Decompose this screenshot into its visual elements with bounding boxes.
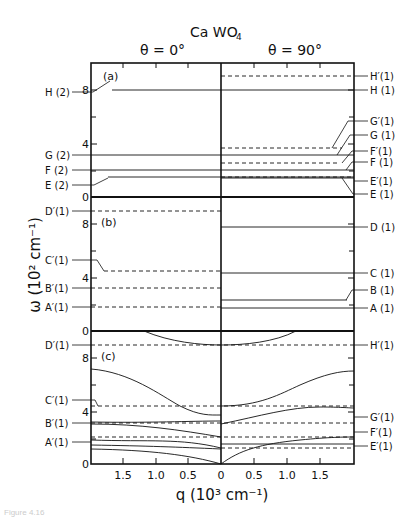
label-G2: G (2) <box>45 150 70 161</box>
right-heading: θ = 90° <box>268 42 322 58</box>
svg-text:8: 8 <box>82 218 89 231</box>
title-text: Ca WO <box>190 24 238 40</box>
label-F2: F (2) <box>45 165 68 176</box>
svg-text:1.5: 1.5 <box>311 469 329 482</box>
label-H1: H (1) <box>370 85 395 96</box>
svg-text:4: 4 <box>82 406 89 419</box>
label-Gp1-c: G′(1) <box>370 412 394 423</box>
panel-b-label: (b) <box>101 216 117 229</box>
label-A1: A (1) <box>370 303 394 314</box>
label-Fp1: F′(1) <box>370 146 392 157</box>
y-tick-labels: 8 4 0 8 4 0 8 4 0 <box>82 84 89 471</box>
y-axis-label: ω (10² cm⁻¹) <box>26 217 44 313</box>
x-tick-labels: 1.5 1.0 0.5 0 0.5 1.0 1.5 <box>114 469 329 482</box>
label-Hp1: H′(1) <box>370 71 394 82</box>
svg-text:0: 0 <box>218 469 225 482</box>
svg-text:1.0: 1.0 <box>278 469 296 482</box>
right-labels: H′(1) H (1) G′(1) G (1) F′(1) F (1) E′(1… <box>332 71 395 452</box>
left-heading: θ = 0° <box>140 42 185 58</box>
panel-a-lines <box>91 76 354 178</box>
svg-text:8: 8 <box>82 84 89 97</box>
label-E2: E (2) <box>45 180 69 191</box>
svg-text:1.5: 1.5 <box>114 469 132 482</box>
svg-text:0.5: 0.5 <box>245 469 263 482</box>
figure-caption: Figure 4.16 <box>4 508 44 517</box>
label-Ap1-c: A′(1) <box>45 437 68 448</box>
title-subscript: 4 <box>236 32 242 42</box>
label-Dp1-b: D′(1) <box>45 206 69 217</box>
panel-c-curves <box>91 331 354 464</box>
svg-text:1.0: 1.0 <box>147 469 165 482</box>
label-Ep1: E′(1) <box>370 176 393 187</box>
panel-b-lines <box>91 211 354 308</box>
label-C1: C (1) <box>370 268 394 279</box>
label-F1: F (1) <box>370 157 393 168</box>
label-Fp1-c: F′(1) <box>370 427 392 438</box>
svg-text:4: 4 <box>82 272 89 285</box>
label-Gp1: G′(1) <box>370 116 394 127</box>
label-Hp1-c: H′(1) <box>370 340 394 351</box>
label-G1: G (1) <box>370 130 395 141</box>
label-H2: H (2) <box>45 87 70 98</box>
left-labels: H (2) G (2) F (2) E (2) D′(1) C′(1) B′(1… <box>45 81 110 448</box>
label-Ap1-b: A′(1) <box>45 302 68 313</box>
label-D1: D (1) <box>370 222 395 233</box>
label-B1: B (1) <box>370 285 394 296</box>
figure-title: Ca WO 4 <box>190 24 242 42</box>
label-Bp1-b: B′(1) <box>45 283 68 294</box>
label-Cp1-c: C′(1) <box>45 395 69 406</box>
panel-c-label: (c) <box>101 350 116 363</box>
x-axis-label: q (10³ cm⁻¹) <box>176 486 269 504</box>
panel-a-label: (a) <box>103 70 118 83</box>
label-Ep1-c: E′(1) <box>370 441 393 452</box>
svg-text:4: 4 <box>82 138 89 151</box>
label-Cp1-b: C′(1) <box>45 255 69 266</box>
label-Bp1-c: B′(1) <box>45 418 68 429</box>
plot-frame <box>91 63 354 464</box>
label-E1: E (1) <box>370 189 394 200</box>
svg-text:0: 0 <box>82 325 89 338</box>
svg-text:0: 0 <box>82 458 89 471</box>
y-ticks <box>91 90 354 439</box>
svg-text:0: 0 <box>82 191 89 204</box>
dispersion-figure: Ca WO 4 θ = 0° θ = 90° 8 4 0 8 4 0 8 4 0… <box>0 0 409 522</box>
svg-text:8: 8 <box>82 352 89 365</box>
svg-text:0.5: 0.5 <box>179 469 197 482</box>
label-Dp1-c: D′(1) <box>45 340 69 351</box>
